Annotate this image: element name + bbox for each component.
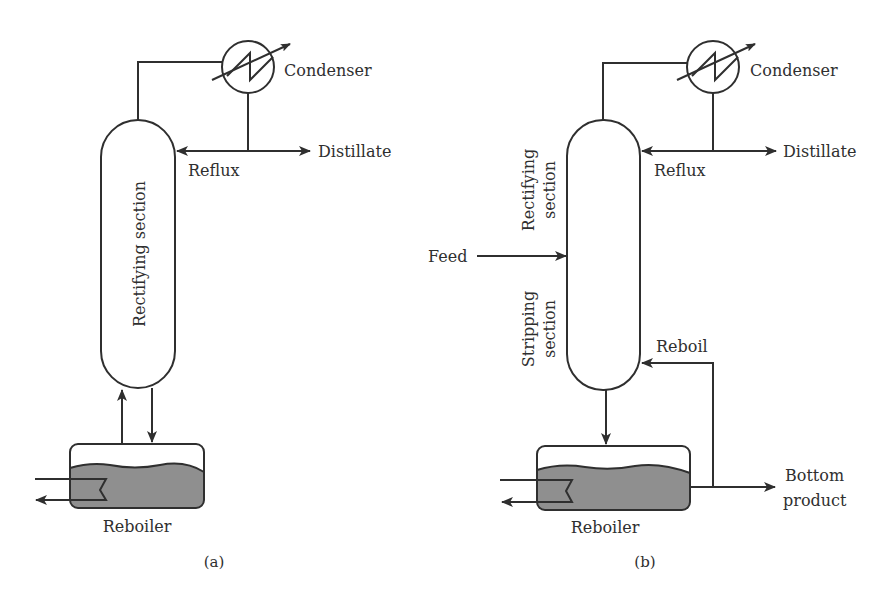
- distillate-label: Distillate: [783, 142, 856, 161]
- column-label: Rectifying section: [130, 181, 149, 327]
- reboiler-vessel: [537, 446, 690, 510]
- rectifying-label-line1: Rectifying: [519, 149, 538, 232]
- condenser-icon: [212, 41, 290, 93]
- caption-b: (b): [634, 553, 655, 571]
- overhead-vapor-line: [603, 63, 688, 120]
- reboiler-vessel: [70, 444, 204, 508]
- distillate-label: Distillate: [318, 142, 391, 161]
- feed-label: Feed: [428, 247, 467, 266]
- reflux-label: Reflux: [188, 161, 240, 180]
- reboil-label: Reboil: [656, 337, 708, 356]
- stripping-label-line1: Stripping: [519, 291, 538, 367]
- bottom-product-line2: product: [783, 491, 847, 510]
- rectifying-label-line2: section: [540, 161, 559, 219]
- reboiler-label: Reboiler: [103, 517, 172, 536]
- condenser-label: Condenser: [750, 61, 838, 80]
- reflux-label: Reflux: [654, 161, 706, 180]
- reboiler-label: Reboiler: [571, 518, 640, 537]
- distillation-diagram: Condenser Distillate Reflux Rectifying s…: [0, 0, 888, 591]
- caption-a: (a): [204, 553, 225, 571]
- distillation-column: [567, 120, 640, 390]
- overhead-vapor-line: [138, 62, 222, 120]
- bottom-product-line1: Bottom: [785, 466, 844, 485]
- panel-b: Condenser Distillate Reflux Rectifying s…: [428, 41, 856, 571]
- condenser-label: Condenser: [284, 61, 372, 80]
- panel-a: Condenser Distillate Reflux Rectifying s…: [35, 41, 391, 571]
- stripping-label-line2: section: [540, 300, 559, 358]
- condenser-icon: [677, 41, 755, 93]
